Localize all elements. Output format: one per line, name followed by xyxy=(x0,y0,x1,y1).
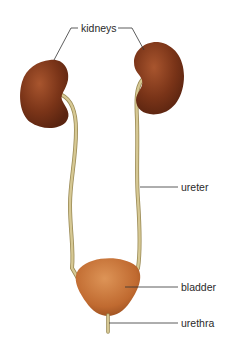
label-bladder: bladder xyxy=(181,282,216,293)
urinary-system-illustration xyxy=(0,0,229,356)
label-kidneys: kidneys xyxy=(81,23,117,34)
label-urethra: urethra xyxy=(181,318,214,329)
label-ureter: ureter xyxy=(181,182,208,193)
left-kidney xyxy=(20,60,68,128)
right-kidney xyxy=(134,42,184,114)
ureters xyxy=(62,80,142,282)
